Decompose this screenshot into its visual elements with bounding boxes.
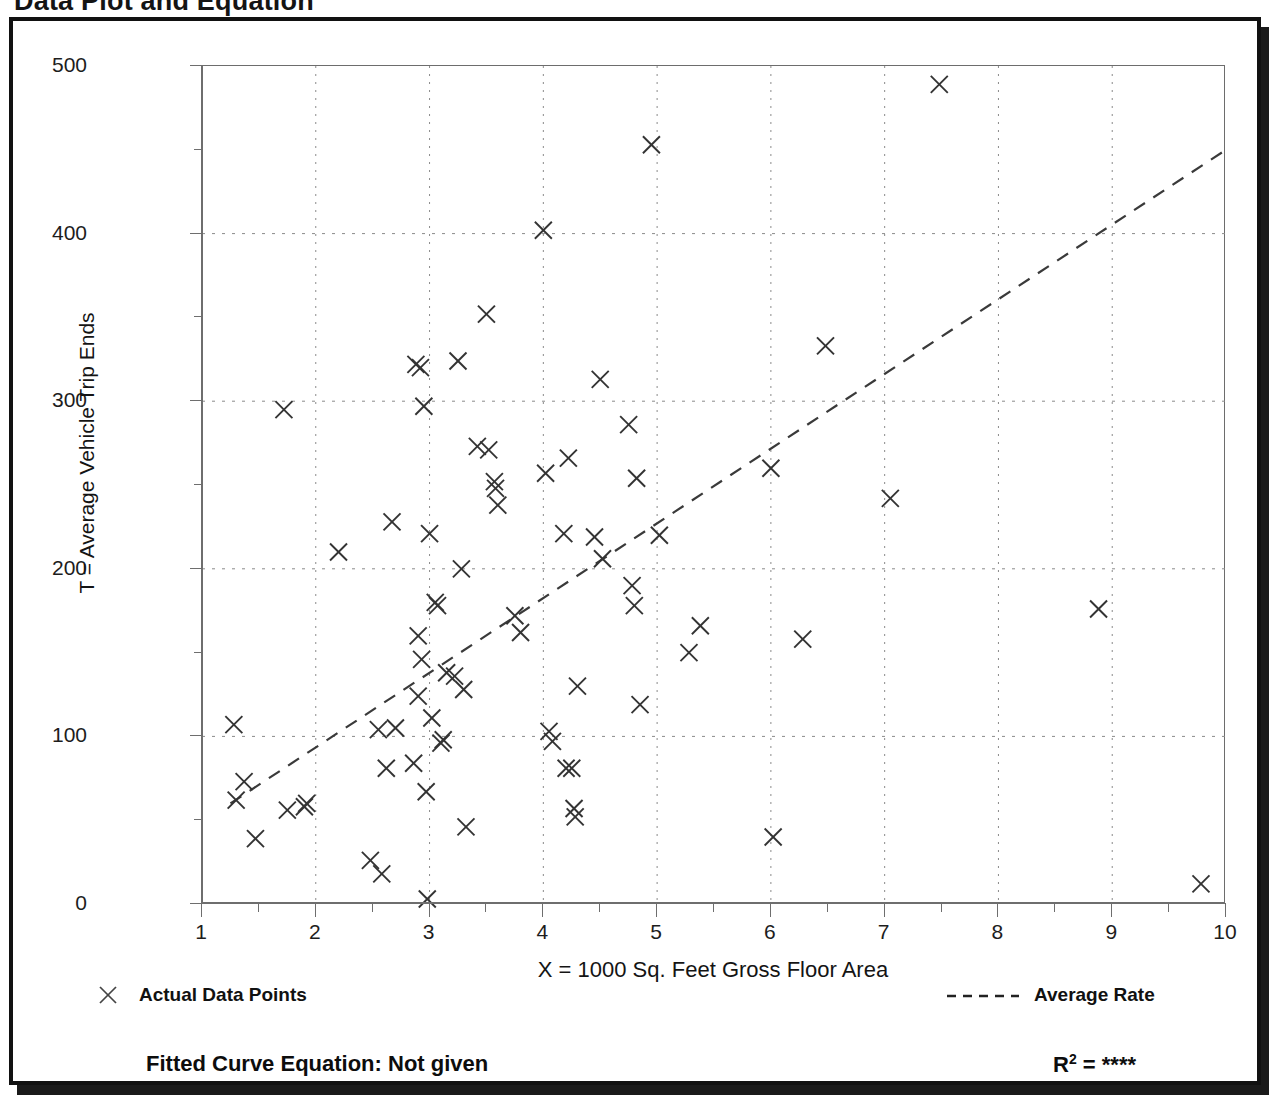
data-point	[1192, 875, 1209, 892]
data-point	[453, 560, 470, 577]
data-point	[680, 644, 697, 661]
data-point	[378, 760, 395, 777]
x-tick	[1225, 903, 1226, 917]
data-point	[569, 678, 586, 695]
page-title: Data Plot and Equation	[14, 0, 314, 17]
plot-area	[201, 65, 1225, 903]
data-point	[555, 525, 572, 542]
x-tick	[1111, 903, 1112, 917]
x-tick	[997, 903, 998, 917]
data-point	[535, 222, 552, 239]
x-tick-label: 7	[864, 920, 904, 944]
data-point	[817, 337, 834, 354]
data-point	[692, 617, 709, 634]
x-tick	[770, 903, 771, 917]
data-point	[931, 76, 948, 93]
x-tick-minor	[941, 903, 942, 912]
x-tick-label: 10	[1205, 920, 1245, 944]
data-point	[410, 627, 427, 644]
y-tick	[190, 568, 202, 569]
data-point	[279, 802, 296, 819]
r-squared-exponent: 2	[1069, 1051, 1077, 1067]
fitted-curve-equation: Fitted Curve Equation: Not given	[146, 1051, 488, 1077]
y-tick-minor	[194, 149, 202, 150]
y-tick	[190, 400, 202, 401]
x-tick-label: 3	[409, 920, 449, 944]
data-point	[882, 490, 899, 507]
y-axis-title: T = Average Vehicle Trip Ends	[75, 173, 99, 733]
x-tick-minor	[485, 903, 486, 912]
y-tick	[190, 233, 202, 234]
x-tick	[201, 903, 202, 917]
x-tick-minor	[372, 903, 373, 912]
data-point	[450, 352, 467, 369]
x-tick-minor	[713, 903, 714, 912]
x-tick	[656, 903, 657, 917]
chart-card: 010020030040050012345678910 T = Average …	[9, 17, 1261, 1085]
y-tick-minor	[194, 819, 202, 820]
r-squared-symbol: R	[1053, 1052, 1069, 1077]
data-point	[415, 398, 432, 415]
x-tick-label: 1	[181, 920, 221, 944]
data-point	[405, 755, 422, 772]
data-point	[512, 624, 529, 641]
data-point	[1090, 601, 1107, 618]
legend-line-label: Average Rate	[1034, 984, 1155, 1006]
x-tick-label: 5	[636, 920, 676, 944]
data-point	[413, 651, 430, 668]
data-point	[387, 720, 404, 737]
data-point	[410, 688, 427, 705]
data-point	[225, 716, 242, 733]
data-point	[418, 783, 435, 800]
x-tick	[429, 903, 430, 917]
r-squared-equals: = ****	[1077, 1052, 1136, 1077]
data-point	[651, 527, 668, 544]
data-point	[373, 865, 390, 882]
x-tick-label: 6	[750, 920, 790, 944]
data-point	[236, 773, 253, 790]
r-squared-value: R2 = ****	[1053, 1051, 1136, 1078]
data-point	[455, 681, 472, 698]
dashed-line-icon	[945, 983, 1021, 1009]
data-point	[330, 544, 347, 561]
data-point	[594, 550, 611, 567]
y-tick-label: 500	[27, 53, 87, 77]
x-tick	[542, 903, 543, 917]
x-tick-label: 2	[295, 920, 335, 944]
x-tick	[315, 903, 316, 917]
data-point	[537, 465, 554, 482]
x-axis-title: X = 1000 Sq. Feet Gross Floor Area	[201, 957, 1225, 983]
x-tick-minor	[258, 903, 259, 912]
data-point	[560, 450, 577, 467]
x-tick-label: 9	[1091, 920, 1131, 944]
data-point	[628, 470, 645, 487]
x-tick-label: 4	[522, 920, 562, 944]
data-point	[480, 441, 497, 458]
x-tick-minor	[827, 903, 828, 912]
x-tick-minor	[1054, 903, 1055, 912]
y-tick	[190, 735, 202, 736]
data-point	[506, 607, 523, 624]
x-tick	[884, 903, 885, 917]
data-point	[412, 359, 429, 376]
data-point	[478, 306, 495, 323]
data-point	[592, 371, 609, 388]
data-point	[457, 818, 474, 835]
x-marker-icon	[96, 983, 122, 1009]
y-tick	[190, 65, 202, 66]
data-point	[632, 696, 649, 713]
x-tick-label: 8	[977, 920, 1017, 944]
data-point	[765, 828, 782, 845]
y-tick-label: 0	[27, 891, 87, 915]
data-point	[624, 577, 641, 594]
x-tick-minor	[1168, 903, 1169, 912]
data-point	[586, 528, 603, 545]
data-point	[228, 792, 245, 809]
scatter-points	[202, 66, 1226, 904]
data-point	[469, 438, 486, 455]
data-point	[362, 852, 379, 869]
data-point	[626, 597, 643, 614]
data-point	[275, 401, 292, 418]
data-point	[643, 136, 660, 153]
y-tick-minor	[194, 652, 202, 653]
